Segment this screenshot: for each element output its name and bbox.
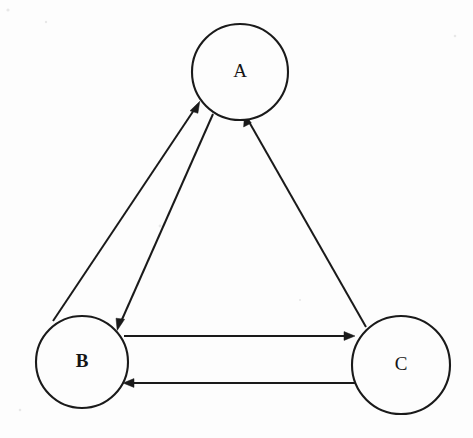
edge-a-to-b-arrowhead	[116, 318, 125, 330]
edge-a-to-b[interactable]	[116, 114, 213, 330]
node-group: A B C	[36, 24, 450, 414]
diagram-canvas: A B C	[0, 0, 473, 438]
edge-b-to-a-line	[53, 107, 196, 321]
node-c-label: C	[395, 353, 408, 374]
edge-b-to-c[interactable]	[124, 332, 355, 341]
edge-b-to-a[interactable]	[53, 101, 200, 321]
edge-c-to-a-line	[248, 120, 366, 327]
node-a-label: A	[233, 60, 247, 81]
node-b-label: B	[76, 350, 89, 371]
directed-graph-svg: A B C	[0, 0, 473, 438]
node-c[interactable]: C	[352, 316, 450, 414]
node-a[interactable]: A	[192, 24, 288, 120]
edge-b-to-c-arrowhead	[344, 332, 355, 341]
edge-c-to-b[interactable]	[123, 379, 358, 388]
node-b[interactable]: B	[36, 316, 128, 408]
edge-c-to-a[interactable]	[244, 114, 366, 327]
edge-b-to-a-arrowhead	[190, 101, 200, 113]
edge-a-to-b-line	[120, 114, 213, 324]
